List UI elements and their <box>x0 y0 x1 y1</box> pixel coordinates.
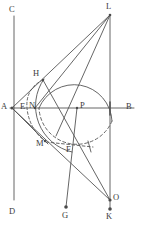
point-label-E: E <box>20 102 25 111</box>
diagram-canvas <box>0 0 144 226</box>
point-label-L: L <box>106 2 111 11</box>
segment-A-L <box>12 15 110 108</box>
point-dot-G <box>64 205 68 209</box>
point-dot-H <box>42 79 44 81</box>
segment-A-O <box>12 108 110 200</box>
point-dot-A <box>11 107 14 110</box>
point-label-O: O <box>113 193 119 202</box>
point-label-N: N <box>29 101 35 110</box>
segment-H-O <box>43 80 110 200</box>
point-label-F: F <box>66 145 71 154</box>
point-label-C: C <box>9 5 15 14</box>
point-label-M: M <box>36 139 44 148</box>
point-dot-P <box>76 107 78 109</box>
point-label-H: H <box>33 69 39 78</box>
point-label-D: D <box>9 207 15 216</box>
point-label-A: A <box>1 102 7 111</box>
vertical-line-PG <box>66 108 77 207</box>
point-dot-M <box>44 140 46 142</box>
point-dot-L <box>109 14 112 17</box>
point-dot-O <box>108 198 111 201</box>
point-label-G: G <box>62 211 68 220</box>
point-label-K: K <box>106 212 112 221</box>
point-label-B: B <box>126 102 132 111</box>
geometry-diagram: C D A B L K O H P E N M F G <box>0 0 144 226</box>
point-label-P: P <box>80 101 85 110</box>
